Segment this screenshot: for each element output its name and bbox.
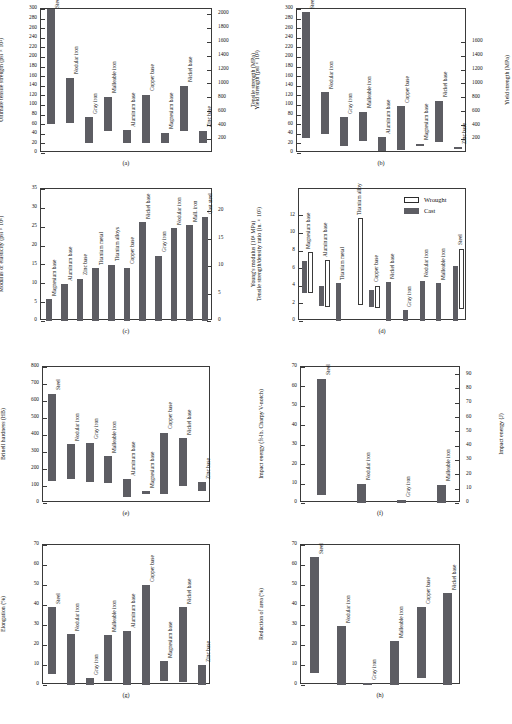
- y-tick-label: 8: [262, 247, 295, 252]
- bar-category-label: Steel: [56, 379, 62, 390]
- bar: [436, 283, 441, 321]
- y-tick-label: 20: [264, 641, 297, 646]
- y-tick-label-right: 20: [466, 471, 471, 476]
- y-tick-right: [461, 56, 465, 57]
- chart-caption-c: (c): [40, 327, 212, 334]
- y-tick-label: 40: [6, 601, 39, 606]
- y-tick-right: [455, 374, 459, 375]
- y-tick-label: 20: [264, 461, 297, 466]
- y-tick-label: 140: [4, 82, 37, 87]
- y-tick: [301, 685, 305, 686]
- y-tick: [301, 565, 305, 566]
- bar: [317, 379, 326, 496]
- bar-category-label: Nickel base: [187, 578, 193, 603]
- y-tick-label: 200: [4, 53, 37, 58]
- y-tick: [41, 38, 45, 39]
- y-tick-right: [455, 403, 459, 404]
- bar-category-label: Nickel base: [443, 72, 449, 97]
- y-tick-label: 280: [260, 15, 293, 20]
- y-tick-label-right: 1000: [218, 80, 229, 85]
- y-tick-label-right: 400: [218, 122, 226, 127]
- y-tick-label: 200: [6, 465, 39, 470]
- y-tick: [301, 503, 305, 504]
- chart-caption-f: (f): [300, 509, 460, 516]
- y-tick-label: 240: [4, 34, 37, 39]
- y-tick-label: 300: [260, 5, 293, 10]
- y-tick-label: 20: [4, 140, 37, 145]
- y-tick-right: [455, 474, 459, 475]
- bar: [86, 443, 94, 482]
- bar-category-label: Zinc base: [83, 254, 89, 275]
- y-tick-label: 15: [4, 261, 37, 266]
- bar-category-label: Nickel base: [187, 409, 193, 434]
- bar-category-label: Gray iron: [407, 286, 413, 307]
- y-tick-label-right: 5: [218, 290, 221, 295]
- y-tick-label: 160: [4, 73, 37, 78]
- y-tick: [301, 484, 305, 485]
- bar-category-label: Nickel base: [452, 564, 458, 589]
- y-tick: [301, 645, 305, 646]
- bar-category-label: Copper base: [168, 403, 174, 430]
- y-tick-label-right: 600: [218, 108, 226, 113]
- y-tick-right: [461, 42, 465, 43]
- y-tick: [41, 302, 45, 303]
- bar-category-label: Titanium alloy: [357, 181, 363, 215]
- y-tick: [41, 189, 45, 190]
- y-tick-label: 60: [4, 121, 37, 126]
- y-axis-title: Yield strength (psi × 10³): [254, 8, 260, 152]
- bar-category-label: Aluminum base: [131, 93, 137, 127]
- y-tick: [41, 246, 45, 247]
- bar: [171, 228, 178, 321]
- y-tick-label: 120: [260, 92, 293, 97]
- y-tick-label-right: 1000: [472, 80, 483, 85]
- y-tick: [41, 283, 45, 284]
- bar: [403, 310, 408, 321]
- y-tick-right: [455, 489, 459, 490]
- chart-panel-f: 0102030405060700102030405060708090Impact…: [256, 358, 512, 532]
- y-tick-label: 12: [262, 212, 295, 217]
- y-axis-title: Ultimate tensile strength (psi × 10³): [0, 8, 4, 152]
- bar-category-label: Steel: [56, 593, 62, 604]
- y-tick: [41, 9, 45, 10]
- y-tick-label-right: 40: [466, 442, 471, 447]
- bar-category-label: Cast steel: [208, 193, 214, 214]
- bar: [199, 131, 207, 143]
- bar-category-label: Nodular iron: [177, 197, 183, 225]
- y-tick-right: [207, 56, 211, 57]
- bar: [77, 279, 84, 321]
- y-tick-label: 700: [6, 380, 39, 385]
- y-tick-label: 30: [6, 621, 39, 626]
- y-tick: [43, 367, 47, 368]
- y-tick-right: [455, 503, 459, 504]
- plot-area-h: [300, 544, 460, 684]
- y-tick: [41, 28, 45, 29]
- y-tick-right: [207, 70, 211, 71]
- y-tick-label-right: 30: [466, 456, 471, 461]
- y-tick-label-right: 10: [466, 485, 471, 490]
- y-tick: [43, 545, 47, 546]
- y-tick: [43, 435, 47, 436]
- bar: [390, 641, 399, 685]
- bar: [85, 117, 93, 143]
- y-tick: [43, 685, 47, 686]
- y-tick-label: 260: [260, 25, 293, 30]
- y-tick-label: 600: [6, 397, 39, 402]
- y-tick: [297, 95, 301, 96]
- y-tick-label: 120: [4, 92, 37, 97]
- y-tick: [41, 57, 45, 58]
- bar-category-label: Magnesium base: [306, 212, 312, 248]
- y-tick-label-right: 80: [466, 385, 471, 390]
- bar-category-label: Copper base: [150, 555, 156, 582]
- y-tick: [299, 251, 303, 252]
- y-tick-label-right: 200: [218, 135, 226, 140]
- chart-caption-b: (b): [296, 159, 466, 166]
- y-tick-label-right: 10: [218, 262, 223, 267]
- bar-category-label: Malleable iron: [112, 600, 118, 632]
- bar-category-label: Gray iron: [348, 93, 354, 114]
- y-tick-label-right: 70: [466, 399, 471, 404]
- y-tick: [43, 418, 47, 419]
- y-tick: [41, 47, 45, 48]
- bar-category-label: Copper base: [374, 256, 380, 283]
- y-tick: [43, 585, 47, 586]
- bar-category-label: Steel: [310, 0, 316, 9]
